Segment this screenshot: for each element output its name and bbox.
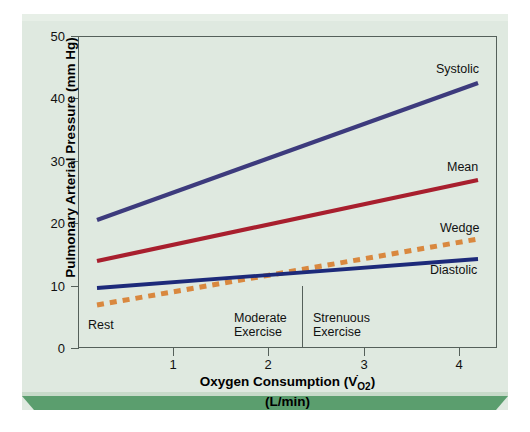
annotation-moderate-line1: Moderate [234, 311, 287, 325]
chart-plot-area: 50 40 30 20 10 0 1 2 3 4 Pulmonary Arter… [0, 0, 530, 432]
annotation-strenuous-exercise: Strenuous Exercise [313, 311, 370, 339]
series-line-systolic [97, 83, 478, 220]
annotation-strenuous-line2: Exercise [313, 325, 370, 339]
annotation-moderate-line2: Exercise [234, 325, 287, 339]
series-label-systolic: Systolic [436, 62, 479, 76]
series-label-mean: Mean [447, 160, 478, 174]
annotation-strenuous-line1: Strenuous [313, 311, 370, 325]
series-label-wedge: Wedge [440, 221, 479, 235]
series-label-diastolic: Diastolic [430, 263, 477, 277]
series-line-diastolic [97, 259, 478, 288]
annotation-moderate-exercise: Moderate Exercise [234, 311, 287, 339]
zone-divider-line [302, 286, 303, 348]
annotation-rest: Rest [88, 318, 114, 332]
